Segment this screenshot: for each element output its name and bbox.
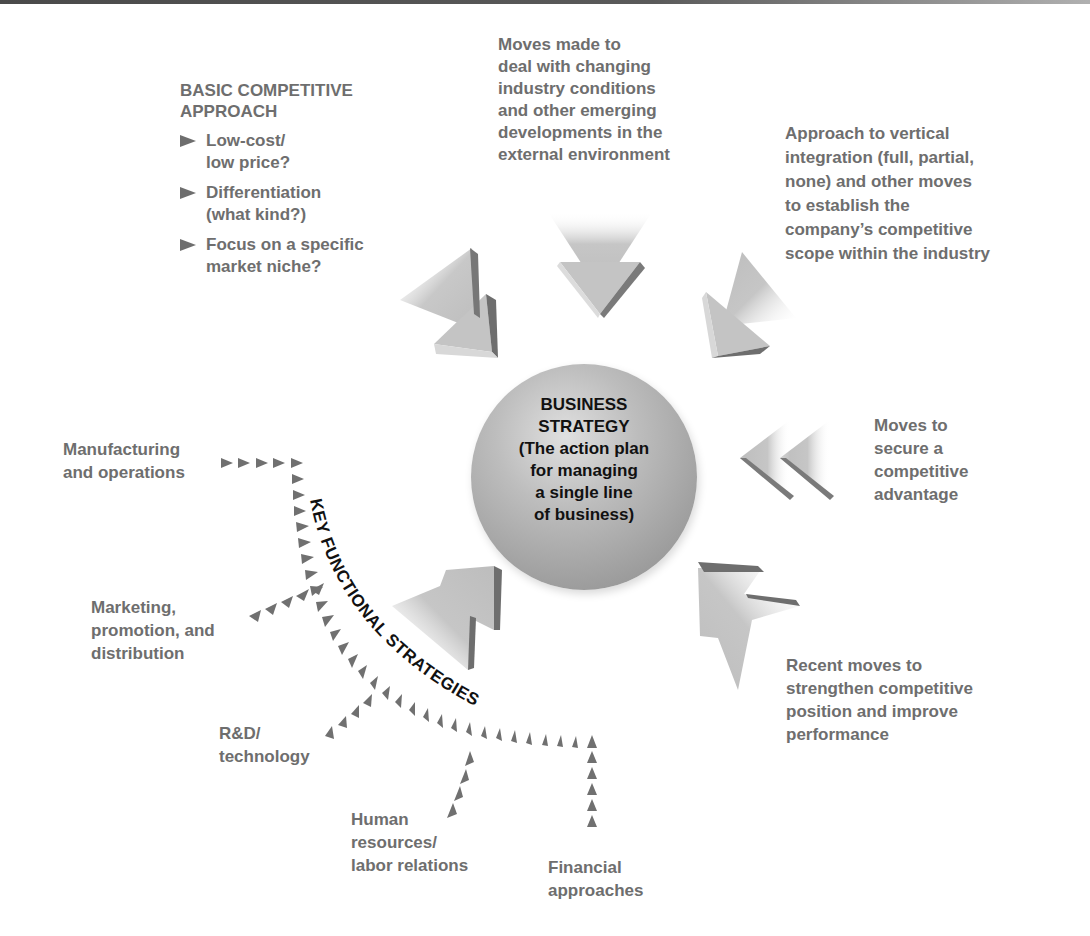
- basic-competitive-approach: BASIC COMPETITIVE APPROACH Low-cost/ low…: [180, 80, 364, 286]
- functional-manufacturing-label: Manufacturing and operations: [63, 438, 185, 484]
- competitive-advantage-label: Moves to secure a competitive advantage: [874, 414, 968, 506]
- bullet-focus: Focus on a specific market niche?: [180, 234, 364, 278]
- bullet-triangle-icon: [180, 239, 196, 251]
- arrow-from-bottom-right-icon: [698, 562, 800, 690]
- business-strategy-text: BUSINESS STRATEGY (The action plan for m…: [471, 394, 697, 526]
- external-moves-label: Moves made to deal with changing industr…: [498, 34, 670, 166]
- functional-financial-label: Financial approaches: [548, 856, 643, 902]
- arrow-from-top-icon: [548, 212, 652, 318]
- bullet-triangle-icon: [180, 135, 196, 147]
- bullet-low-cost: Low-cost/ low price?: [180, 130, 364, 174]
- vertical-integration-label: Approach to vertical integration (full, …: [785, 122, 990, 266]
- bullet-triangle-icon: [180, 187, 196, 199]
- functional-marketing-label: Marketing, promotion, and distribution: [91, 596, 215, 665]
- functional-hr-label: Human resources/ labor relations: [351, 808, 468, 877]
- arrow-from-top-right-icon: [702, 252, 796, 358]
- bullet-differentiation: Differentiation (what kind?): [180, 182, 364, 226]
- basic-approach-title: BASIC COMPETITIVE APPROACH: [180, 80, 364, 122]
- business-strategy-sphere: BUSINESS STRATEGY (The action plan for m…: [471, 364, 697, 590]
- recent-moves-label: Recent moves to strengthen competitive p…: [786, 654, 973, 746]
- arrow-from-top-left-icon: [400, 248, 498, 358]
- functional-rnd-label: R&D/ technology: [219, 722, 310, 768]
- arrow-from-right-icon: [740, 420, 834, 500]
